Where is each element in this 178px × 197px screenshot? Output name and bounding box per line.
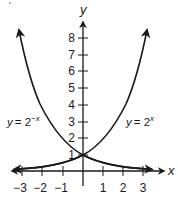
svg-text:5: 5	[68, 81, 75, 95]
stray-dot	[9, 2, 11, 4]
exponential-graph: y x 8 7 6 5 4 3 2 1 −3 −2 −1 1 2 3	[0, 0, 178, 197]
svg-text:1: 1	[100, 181, 107, 195]
svg-text:4: 4	[68, 98, 75, 112]
label-y-equals-2-neg-x: y= 2−x	[6, 114, 41, 128]
curve-2-neg-x-tail	[83, 155, 152, 170]
svg-text:2: 2	[120, 181, 127, 195]
curve-2-neg-x	[19, 30, 150, 169]
svg-text:−1: −1	[54, 181, 68, 195]
x-axis-label: x	[167, 163, 175, 178]
svg-text:7: 7	[68, 48, 75, 62]
x-tick-labels: −3 −2 −1 1 2 3	[13, 181, 147, 195]
svg-text:3: 3	[68, 115, 75, 129]
label-y-equals-2-pow-x: y= 2x	[125, 114, 155, 128]
svg-text:6: 6	[68, 64, 75, 78]
curve-2-pow-x	[16, 30, 147, 169]
y-axis-label: y	[79, 2, 88, 17]
y-tick-labels: 8 7 6 5 4 3 2 1	[68, 31, 75, 162]
svg-text:−2: −2	[33, 181, 47, 195]
svg-text:2: 2	[68, 131, 75, 145]
svg-text:8: 8	[68, 31, 75, 45]
svg-text:−3: −3	[13, 181, 27, 195]
svg-text:3: 3	[140, 181, 147, 195]
